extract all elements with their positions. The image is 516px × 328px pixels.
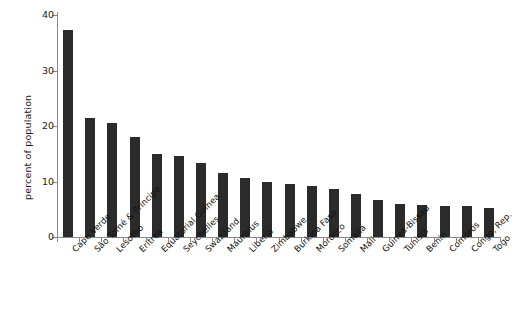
bar [85,118,95,237]
y-tick-label: 40 [42,9,54,20]
plot-area: 010203040 Cape VerdeSão Tomé & PríncipeL… [57,15,500,237]
bar-chart: percent of population 010203040 Cape Ver… [0,0,516,328]
y-tick-label: 20 [42,120,54,131]
y-axis-line [57,12,58,238]
bar [63,30,73,237]
bar [373,200,383,237]
y-tick-label: 10 [42,176,54,187]
y-tick-label: 0 [48,231,54,242]
y-tick-label: 30 [42,65,54,76]
x-tick-mark [57,237,58,242]
y-axis-label: percent of population [22,0,38,200]
